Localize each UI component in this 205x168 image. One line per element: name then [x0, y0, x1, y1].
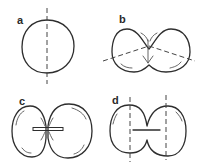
inner-mark-7-c [41, 132, 45, 140]
cell-outline-left-c [12, 106, 46, 157]
panel-label-d: d [112, 94, 119, 106]
panel-d: d [110, 94, 186, 162]
cleavage-diagram: a b c d [0, 0, 205, 168]
axis-left-b [103, 46, 149, 61]
panel-a: a [17, 8, 74, 84]
inner-mark-right-b [170, 62, 181, 68]
panel-label-b: b [119, 13, 126, 25]
inner-mark-8-c [49, 132, 53, 140]
panel-label-a: a [17, 14, 24, 26]
panel-label-c: c [19, 95, 25, 107]
axis-right-b [149, 46, 195, 61]
panel-c: c [12, 95, 92, 158]
inner-mark-2-c [22, 148, 31, 153]
panel-b: b [103, 13, 195, 72]
inner-mark-left-b [121, 64, 132, 68]
cell-outline-a [22, 20, 74, 73]
